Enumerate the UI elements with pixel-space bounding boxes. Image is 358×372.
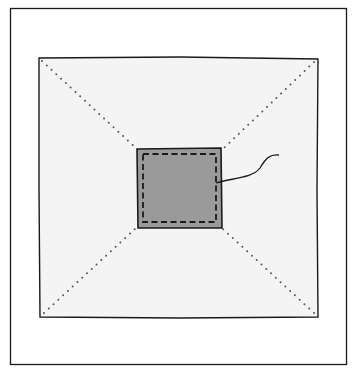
sewing-diagram — [0, 0, 358, 372]
center-patch — [137, 148, 222, 228]
